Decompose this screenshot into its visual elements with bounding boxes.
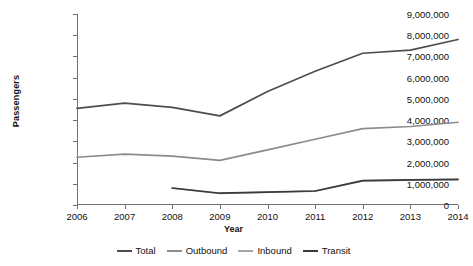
x-tick-label: 2007 — [105, 211, 145, 222]
x-tick — [458, 205, 459, 209]
legend-label: Transit — [322, 245, 351, 256]
y-axis-title: Passengers — [11, 61, 21, 141]
legend-label: Total — [136, 245, 156, 256]
x-tick — [363, 205, 364, 209]
series-line-total — [77, 39, 458, 115]
x-tick — [172, 205, 173, 209]
x-tick — [125, 205, 126, 209]
x-tick-label: 2011 — [295, 211, 335, 222]
legend-swatch-icon — [167, 250, 182, 252]
legend-label: Outbound — [186, 245, 228, 256]
x-tick-label: 2009 — [200, 211, 240, 222]
x-tick-label: 2010 — [248, 211, 288, 222]
legend-item-inbound[interactable]: Inbound — [238, 245, 291, 256]
x-tick-label: 2012 — [343, 211, 383, 222]
chart-legend: TotalOutboundInboundTransit — [0, 245, 467, 256]
x-tick-label: 2014 — [438, 211, 473, 222]
legend-swatch-icon — [303, 250, 318, 252]
series-line-outbound — [77, 122, 458, 160]
legend-swatch-icon — [238, 250, 253, 252]
legend-swatch-icon — [117, 250, 132, 252]
x-tick-label: 2013 — [390, 211, 430, 222]
legend-item-transit[interactable]: Transit — [303, 245, 351, 256]
series-lines — [77, 14, 458, 205]
x-tick-label: 2008 — [152, 211, 192, 222]
x-tick — [77, 205, 78, 209]
legend-item-outbound[interactable]: Outbound — [167, 245, 228, 256]
legend-label: Inbound — [257, 245, 291, 256]
x-tick — [268, 205, 269, 209]
x-axis-title: Year — [0, 224, 467, 234]
legend-item-total[interactable]: Total — [117, 245, 156, 256]
x-tick-label: 2006 — [57, 211, 97, 222]
x-tick — [220, 205, 221, 209]
series-line-transit — [172, 179, 458, 193]
x-tick — [315, 205, 316, 209]
x-tick — [410, 205, 411, 209]
plot-area: 01,000,0002,000,0003,000,0004,000,0005,0… — [77, 14, 458, 205]
